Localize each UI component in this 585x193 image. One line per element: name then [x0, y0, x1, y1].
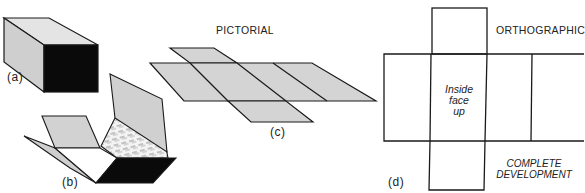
label-part-a: (a) [7, 70, 23, 84]
ortho-bottom-flap [429, 141, 485, 190]
ortho-top-flap [432, 8, 487, 54]
heading-orthographic: ORTHOGRAPHIC [496, 24, 585, 36]
complete-development-caption: COMPLETE DEVELOPMENT [492, 158, 576, 180]
inside-face-line-3: up [437, 106, 481, 117]
ortho-fold-1 [430, 54, 431, 141]
pictorial-bottom-flap [228, 101, 313, 122]
label-part-b: (b) [62, 175, 78, 189]
label-part-c: (c) [270, 125, 286, 139]
box-end-face [44, 45, 98, 92]
complete-line-2: DEVELOPMENT [492, 169, 576, 180]
complete-line-1: COMPLETE [492, 158, 576, 169]
heading-pictorial: PICTORIAL [216, 24, 274, 36]
ortho-fold-2 [485, 54, 487, 141]
pictorial-development [150, 48, 376, 122]
pictorial-main-band [150, 63, 376, 101]
back-left-flap [42, 116, 100, 148]
inside-face-up-note: Inside face up [437, 84, 481, 117]
pictorial-top-flap [170, 48, 237, 63]
ortho-fold-3 [531, 54, 532, 141]
label-part-d: (d) [388, 175, 404, 189]
ortho-main-band [384, 54, 584, 141]
